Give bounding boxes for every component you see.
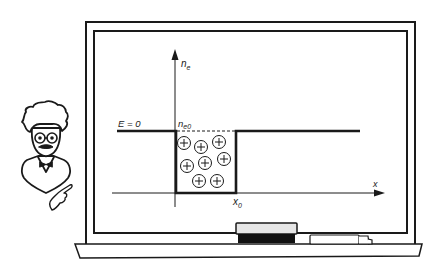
x-axis-label: x [372, 179, 378, 189]
field-label: E = 0 [118, 118, 141, 129]
ion-icon [195, 141, 208, 154]
chalk [310, 235, 372, 244]
y-axis-label: ne [181, 58, 191, 71]
ion-icon [213, 136, 226, 149]
density-profile [117, 131, 360, 193]
chalkboard-illustration: ne E = 0 ne0 x x0 [0, 0, 438, 272]
ne0-label: ne0 [178, 118, 191, 130]
ion-icon [193, 175, 206, 188]
ion-icon [181, 160, 194, 173]
professor-character [22, 101, 72, 210]
ion-icon [199, 157, 212, 170]
mustache [39, 145, 53, 149]
density-diagram: ne E = 0 ne0 x x0 [112, 49, 385, 209]
professor-body [22, 156, 70, 193]
ion-icon [178, 137, 191, 150]
ion-icon [211, 175, 224, 188]
ion-icon [218, 153, 231, 166]
ions [178, 136, 231, 188]
x-axis-arrow-icon [374, 190, 385, 197]
y-axis-arrow-icon [172, 49, 179, 60]
x0-label: x0 [232, 196, 242, 209]
eraser [236, 223, 297, 243]
